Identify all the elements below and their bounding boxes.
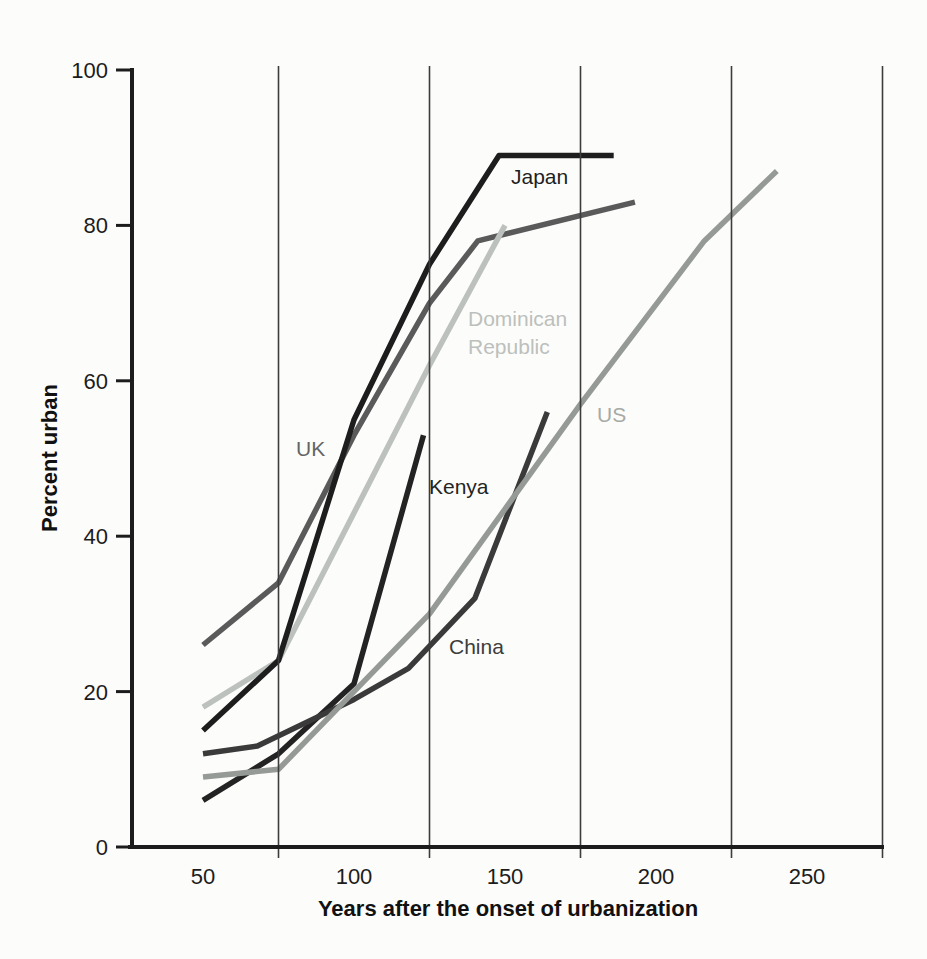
series-label-us: US (597, 403, 626, 426)
series-line-china (203, 412, 547, 754)
chart-figure: 02040608010050100150200250Years after th… (0, 0, 927, 959)
x-tick-label-250: 250 (789, 864, 826, 889)
series-line-us (203, 171, 777, 777)
x-tick-label-50: 50 (191, 864, 215, 889)
series-label-uk: UK (296, 437, 325, 460)
y-tick-label-80: 80 (84, 213, 108, 238)
series-line-uk (203, 202, 635, 645)
x-tick-label-200: 200 (638, 864, 675, 889)
series-label-china: China (449, 635, 504, 658)
y-tick-label-100: 100 (71, 58, 108, 83)
y-axis-title: Percent urban (37, 384, 62, 532)
series-label-japan: Japan (511, 165, 568, 188)
y-tick-label-40: 40 (84, 524, 108, 549)
x-tick-label-100: 100 (336, 864, 373, 889)
y-tick-label-0: 0 (96, 835, 108, 860)
series-label-dominican-republic: DominicanRepublic (468, 307, 567, 358)
y-tick-label-20: 20 (84, 680, 108, 705)
y-tick-label-60: 60 (84, 369, 108, 394)
x-tick-label-150: 150 (487, 864, 524, 889)
series-label-kenya: Kenya (429, 475, 489, 498)
line-chart: 02040608010050100150200250Years after th… (0, 0, 927, 959)
x-axis-title: Years after the onset of urbanization (318, 896, 698, 921)
